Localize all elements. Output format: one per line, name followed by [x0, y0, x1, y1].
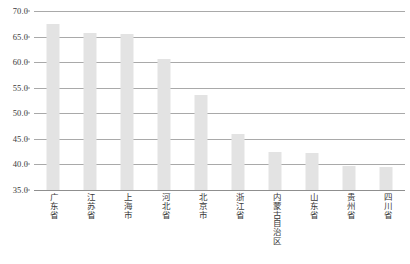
x-label-slot: 贵州省 — [331, 191, 368, 264]
x-tick-label: 广东省 — [48, 193, 58, 219]
y-tick-mark — [26, 164, 30, 165]
x-label-slot: 上海市 — [108, 191, 145, 264]
x-label-slot: 内蒙古自治区 — [257, 191, 294, 264]
y-tick-mark — [26, 62, 30, 63]
x-tick-label: 上海市 — [122, 193, 132, 219]
x-label-slot: 山东省 — [294, 191, 331, 264]
y-tick-mark — [26, 190, 30, 191]
x-axis: 广东省江苏省上海市河北省北京市浙江省内蒙古自治区山东省贵州省四川省 — [34, 191, 405, 264]
y-tick-mark — [26, 36, 30, 37]
y-axis: 70.065.060.055.050.045.040.035.0 — [0, 0, 30, 200]
bar[interactable] — [306, 153, 319, 190]
x-tick-label: 山东省 — [307, 193, 317, 219]
x-label-slot: 广东省 — [34, 191, 71, 264]
bar-slot — [108, 11, 145, 190]
bar[interactable] — [83, 33, 96, 190]
x-label-slot: 江苏省 — [71, 191, 108, 264]
x-label-slot: 浙江省 — [220, 191, 257, 264]
y-tick-mark — [26, 113, 30, 114]
x-label-slot: 北京市 — [182, 191, 219, 264]
bar-slot — [331, 11, 368, 190]
x-label-slot: 四川省 — [368, 191, 405, 264]
bar-slot — [145, 11, 182, 190]
bar-slot — [220, 11, 257, 190]
bar-slot — [182, 11, 219, 190]
bar-slot — [294, 11, 331, 190]
x-tick-label: 内蒙古自治区 — [270, 193, 280, 246]
y-tick-mark — [26, 87, 30, 88]
x-tick-label: 北京市 — [196, 193, 206, 219]
x-tick-label: 贵州省 — [345, 193, 355, 219]
bars-layer — [34, 11, 405, 190]
bar[interactable] — [343, 166, 356, 190]
bar[interactable] — [157, 59, 170, 190]
bar[interactable] — [194, 95, 207, 190]
bar[interactable] — [269, 152, 282, 190]
x-tick-label: 江苏省 — [85, 193, 95, 219]
bar[interactable] — [120, 34, 133, 190]
bar-slot — [368, 11, 405, 190]
x-tick-label: 四川省 — [382, 193, 392, 219]
bar-slot — [71, 11, 108, 190]
bar-chart: 70.065.060.055.050.045.040.035.0 广东省江苏省上… — [0, 0, 410, 264]
bar[interactable] — [232, 134, 245, 190]
plot-area — [34, 11, 405, 190]
y-tick-mark — [26, 138, 30, 139]
x-label-slot: 河北省 — [145, 191, 182, 264]
x-tick-label: 河北省 — [159, 193, 169, 219]
bar-slot — [34, 11, 71, 190]
y-tick-mark — [26, 11, 30, 12]
x-tick-label: 浙江省 — [233, 193, 243, 219]
bar-slot — [257, 11, 294, 190]
bar[interactable] — [46, 24, 59, 190]
bar[interactable] — [380, 167, 393, 190]
